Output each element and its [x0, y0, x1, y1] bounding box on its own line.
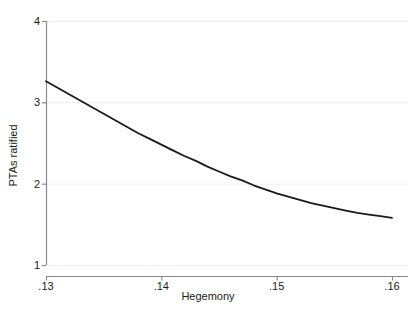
x-axis-title: Hegemony: [0, 291, 416, 302]
y-axis-title: PTAs ratified: [8, 0, 24, 311]
plot-area: [0, 0, 416, 311]
chart-background: [0, 0, 416, 311]
chart-figure: 4321 .13.14.15.16 Hegemony PTAs ratified: [0, 0, 416, 311]
